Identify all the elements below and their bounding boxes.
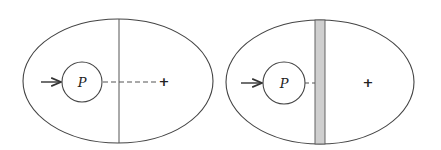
left-ellipse xyxy=(23,19,213,143)
right-center-marker: + xyxy=(363,75,374,90)
diagram-canvas: P + P + xyxy=(0,0,441,150)
left-center-marker: + xyxy=(159,74,170,89)
right-panel: P + xyxy=(226,20,414,144)
left-panel: P + xyxy=(23,19,213,143)
left-particle-label: P xyxy=(77,75,87,90)
right-particle-label: P xyxy=(279,76,289,91)
right-slab xyxy=(315,20,325,144)
